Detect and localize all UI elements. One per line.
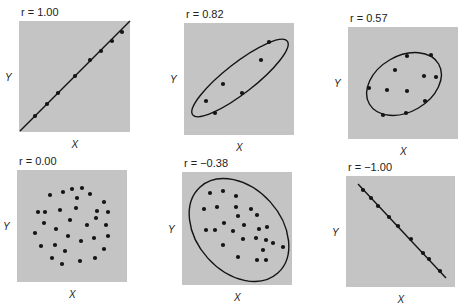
data-point: [102, 200, 106, 204]
data-point: [242, 223, 246, 227]
data-point: [264, 258, 268, 262]
data-point: [241, 237, 245, 241]
data-point: [39, 244, 43, 248]
data-point: [61, 190, 65, 194]
data-point: [381, 113, 385, 117]
plot-area: [17, 170, 127, 282]
data-point: [421, 251, 425, 255]
correlation-label: r = −1.00: [348, 161, 392, 173]
data-point: [79, 239, 83, 243]
scatter-panel-5: r = −0.38YX: [168, 157, 309, 303]
data-point: [387, 215, 391, 219]
data-point: [213, 228, 217, 232]
data-point: [106, 210, 110, 214]
data-point: [231, 229, 235, 233]
data-point: [63, 249, 67, 253]
data-point: [267, 40, 271, 44]
data-point: [422, 74, 426, 78]
data-point: [73, 74, 77, 78]
data-point: [281, 245, 285, 249]
scatter-panel-3: r = 0.57YX: [334, 12, 458, 157]
data-point: [255, 213, 259, 217]
data-point: [234, 205, 238, 209]
data-point: [236, 214, 240, 218]
data-point: [271, 241, 275, 245]
y-axis-label: Y: [170, 74, 178, 85]
data-point: [78, 259, 82, 263]
data-point: [58, 208, 62, 212]
data-point: [221, 243, 225, 247]
correlation-label: r = 1.00: [21, 6, 59, 18]
data-point: [33, 114, 37, 118]
data-point: [405, 54, 409, 58]
data-point: [213, 111, 217, 115]
scatter-panel-6: r = −1.00YX: [332, 161, 455, 305]
data-point: [385, 88, 389, 92]
x-axis-label: X: [233, 292, 241, 303]
data-point: [110, 39, 114, 43]
data-point: [102, 247, 106, 251]
data-point: [80, 186, 84, 190]
data-point: [93, 256, 97, 260]
data-point: [434, 75, 438, 79]
data-point: [255, 258, 259, 262]
data-point: [56, 91, 60, 95]
data-point: [66, 234, 70, 238]
data-point: [257, 227, 261, 231]
data-point: [48, 193, 52, 197]
data-point: [85, 223, 89, 227]
data-point: [202, 207, 206, 211]
data-point: [43, 210, 47, 214]
scatter-panel-2: r = 0.82YX: [170, 8, 297, 153]
y-axis-label: Y: [3, 221, 11, 232]
data-point: [53, 243, 57, 247]
data-point: [236, 255, 240, 259]
data-point: [222, 221, 226, 225]
data-point: [68, 218, 72, 222]
data-point: [409, 237, 413, 241]
data-point: [393, 68, 397, 72]
x-axis-label: X: [68, 289, 76, 300]
data-point: [265, 225, 269, 229]
data-point: [99, 49, 103, 53]
data-point: [254, 236, 258, 240]
data-point: [33, 231, 37, 235]
data-point: [204, 228, 208, 232]
data-point: [75, 196, 79, 200]
data-point: [120, 30, 124, 34]
correlation-label: r = 0.00: [19, 155, 57, 167]
data-point: [208, 191, 212, 195]
correlation-scatter-grid: r = 1.00YXr = 0.82YXr = 0.57YXr = 0.00YX…: [0, 0, 465, 305]
data-point: [234, 194, 238, 198]
data-point: [404, 111, 408, 115]
x-axis-label: X: [71, 139, 79, 150]
x-axis-label: X: [399, 146, 407, 157]
correlation-label: r = −0.38: [184, 157, 228, 169]
correlation-label: r = 0.57: [350, 12, 388, 24]
data-point: [221, 189, 225, 193]
data-point: [95, 209, 99, 213]
data-point: [106, 234, 110, 238]
data-point: [88, 58, 92, 62]
y-axis-label: Y: [5, 72, 13, 83]
data-point: [249, 207, 253, 211]
data-point: [369, 196, 373, 200]
data-point: [240, 91, 244, 95]
x-axis-label: X: [235, 142, 243, 153]
data-point: [429, 53, 433, 57]
data-point: [74, 206, 78, 210]
data-point: [204, 99, 208, 103]
data-point: [396, 224, 400, 228]
data-point: [259, 58, 263, 62]
data-point: [88, 192, 92, 196]
data-point: [261, 248, 265, 252]
scatter-panel-4: r = 0.00YX: [3, 155, 127, 300]
data-point: [264, 238, 268, 242]
data-point: [45, 102, 49, 106]
y-axis-label: Y: [168, 224, 176, 235]
data-point: [92, 236, 96, 240]
data-point: [94, 216, 98, 220]
correlation-label: r = 0.82: [186, 8, 224, 20]
data-point: [376, 204, 380, 208]
data-point: [54, 227, 58, 231]
